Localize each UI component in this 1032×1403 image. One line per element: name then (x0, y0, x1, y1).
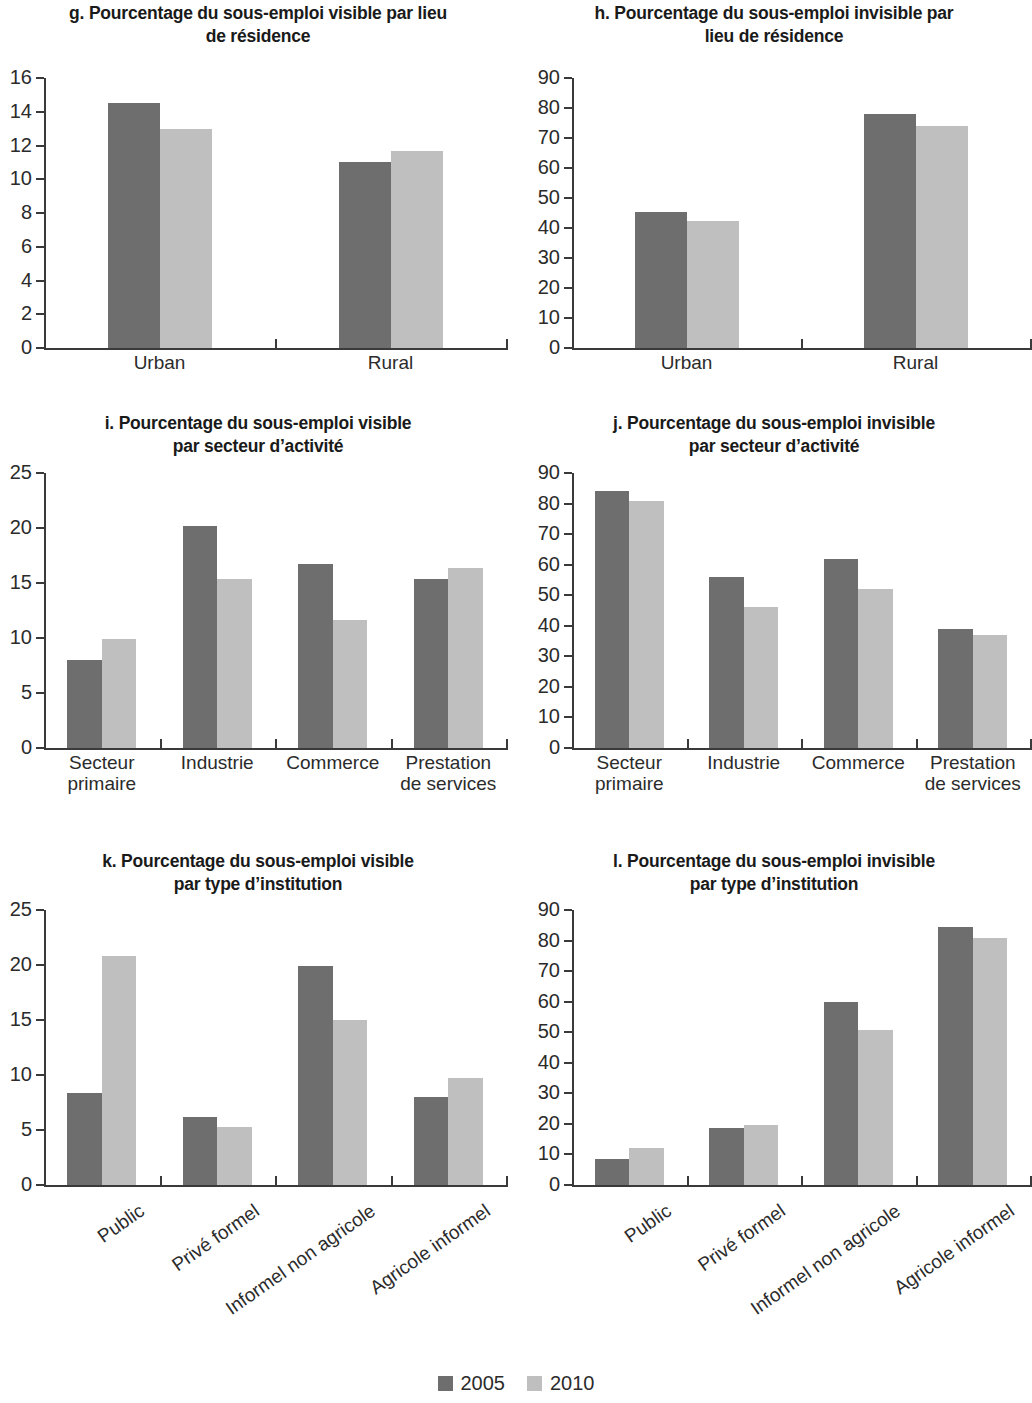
y-tick-label-l-60: 60 (518, 991, 560, 1011)
bar-l-2-2010 (858, 1030, 892, 1185)
y-tick-l-90 (564, 909, 572, 911)
chart-title-line1: l. Pourcentage du sous-emploi invisible (516, 850, 1032, 873)
x-tick-l-0 (572, 1176, 574, 1186)
y-tick-label-l-10: 10 (518, 1143, 560, 1163)
y-tick-l-50 (564, 1031, 572, 1033)
y-tick-l-40 (564, 1062, 572, 1064)
chart-title-l: l. Pourcentage du sous-emploi invisiblep… (516, 850, 1032, 896)
legend-swatch-2005 (438, 1376, 453, 1391)
legend-swatch-2010 (527, 1376, 542, 1391)
y-tick-label-l-20: 20 (518, 1113, 560, 1133)
y-axis-line-l (572, 910, 574, 1186)
x-tick-l-2 (801, 1176, 803, 1186)
y-tick-label-l-90: 90 (518, 899, 560, 919)
bar-l-3-2005 (938, 927, 972, 1185)
chart-title-line2: par type d’institution (516, 873, 1032, 896)
y-tick-l-30 (564, 1092, 572, 1094)
x-tick-l-3 (916, 1176, 918, 1186)
y-tick-label-l-70: 70 (518, 960, 560, 980)
y-tick-l-80 (564, 940, 572, 942)
chart-panel-l: l. Pourcentage du sous-emploi invisiblep… (0, 0, 1032, 1403)
chart-legend: 2005 2010 (0, 1370, 1032, 1396)
bar-l-1-2005 (709, 1128, 743, 1185)
bar-l-2-2005 (824, 1002, 858, 1185)
legend-item-2010: 2010 (527, 1372, 595, 1395)
bar-l-3-2010 (973, 938, 1007, 1186)
bar-l-1-2010 (744, 1125, 778, 1185)
y-tick-l-20 (564, 1123, 572, 1125)
bar-l-0-2005 (595, 1159, 629, 1185)
y-tick-label-l-30: 30 (518, 1082, 560, 1102)
y-tick-label-l-40: 40 (518, 1052, 560, 1072)
legend-item-2005: 2005 (438, 1372, 506, 1395)
y-tick-l-0 (564, 1184, 572, 1186)
y-tick-l-10 (564, 1153, 572, 1155)
x-tick-l-1 (687, 1176, 689, 1186)
bar-l-0-2010 (629, 1148, 663, 1185)
y-tick-label-l-50: 50 (518, 1021, 560, 1041)
y-tick-label-l-0: 0 (518, 1174, 560, 1194)
y-tick-l-70 (564, 970, 572, 972)
legend-label-2005: 2005 (461, 1372, 506, 1395)
y-tick-label-l-80: 80 (518, 930, 560, 950)
legend-label-2010: 2010 (550, 1372, 595, 1395)
y-tick-l-60 (564, 1001, 572, 1003)
